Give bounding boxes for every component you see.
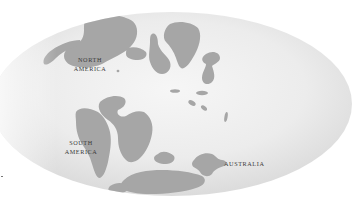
label-north-america: NORTH AMERICA — [62, 55, 118, 73]
label-south-america-line1: SOUTH — [56, 138, 106, 147]
edge-speck — [1, 176, 3, 177]
edge-fade — [0, 12, 352, 196]
label-north-america-line1: NORTH — [62, 55, 118, 64]
label-south-america: SOUTH AMERICA — [56, 138, 106, 156]
globe-projection — [0, 0, 358, 202]
label-north-america-line2: AMERICA — [62, 64, 118, 73]
paleogeographic-map: NORTH AMERICA SOUTH AMERICA AUSTRALIA — [0, 0, 358, 202]
label-australia: AUSTRALIA — [224, 159, 288, 168]
label-south-america-line2: AMERICA — [56, 147, 106, 156]
